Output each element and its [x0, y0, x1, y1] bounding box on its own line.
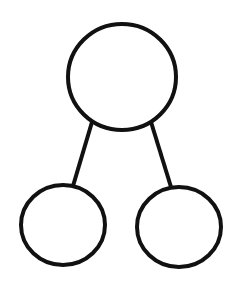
tree-diagram: [0, 0, 234, 286]
node-right-child: [137, 187, 221, 267]
node-root: [68, 24, 176, 130]
node-left-child: [21, 185, 105, 265]
